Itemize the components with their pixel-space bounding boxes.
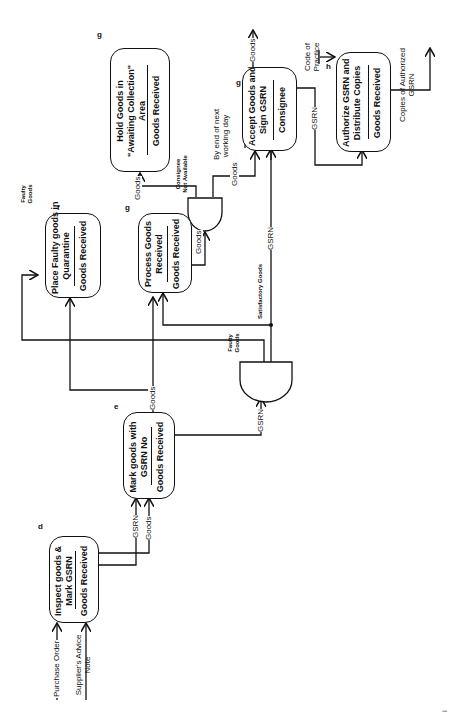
flow-label-suppliers-advice: Supplier's Advice Note <box>74 630 92 700</box>
process-title-line: Received <box>154 218 165 290</box>
mechanism-label: Goods Received <box>151 57 162 165</box>
flow-label-line: Faulty <box>227 329 234 357</box>
process-title-line: Quarantine <box>61 218 72 294</box>
process-title-line: Mark goods with <box>128 421 139 493</box>
process-id-g: g <box>97 30 102 39</box>
mechanism-label: Goods Received <box>372 59 383 147</box>
and-gate-consignee <box>188 198 222 231</box>
process-title-line: Place Faulty goods in <box>50 218 61 294</box>
process-box-accept-goods: Accept Goods and Sign GSRN Consignee <box>242 67 297 151</box>
process-title-line: Mark GSRN <box>64 545 75 617</box>
mechanism-label: Goods Received <box>79 545 90 617</box>
flow-label-goods: Goods <box>133 176 142 200</box>
process-id-h: h <box>326 62 331 71</box>
flow-label-goods: Goods <box>230 162 239 186</box>
footer-mark: i <box>440 710 449 712</box>
flow-label-goods: Goods <box>148 386 157 410</box>
flow-label-faulty-goods: Faulty Goods <box>20 180 34 208</box>
process-title-line: Sign GSRN <box>258 74 269 146</box>
flow-label-line: Faulty <box>20 180 27 208</box>
flow-label-gsrn: GSRN <box>266 227 275 250</box>
flow-label-faulty-goods: Faulty Goods <box>227 329 241 357</box>
process-box-quarantine: Place Faulty goods in Quarantine Goods R… <box>45 213 101 298</box>
process-box-mark-goods: Mark goods with GSRN No Goods Received <box>123 412 175 499</box>
process-title-line: Hold Goods in <box>115 57 126 165</box>
mechanism-label: Goods Received <box>78 218 89 294</box>
mechanism-label: Goods Received <box>155 421 166 493</box>
flow-label-goods: Goods <box>248 38 257 62</box>
flow-label-line: working day <box>221 112 230 160</box>
flow-label-line: Practice <box>312 40 321 74</box>
flow-label-line: Copies of Authorized <box>398 40 407 130</box>
flow-label-gsrn: GSRN <box>131 515 140 538</box>
mechanism-label: Goods Received <box>171 218 182 290</box>
flow-label-line: Code of <box>303 40 312 74</box>
process-title-line: Area <box>137 57 148 165</box>
flow-label-purchase-order: Purchase Order <box>52 640 61 698</box>
process-id-d: d <box>38 522 43 531</box>
flow-label-line: Goods <box>234 329 241 357</box>
flow-label-line: Consignee <box>175 151 182 197</box>
flow-label-by-end-of-next-working-day: By end of next working day <box>212 112 230 160</box>
process-title-line: Authorize GSRN and <box>341 59 352 147</box>
process-title-line: Accept Goods and <box>247 74 258 146</box>
process-id-e: e <box>114 402 118 411</box>
process-box-hold-goods: Hold Goods in "Awaiting Collection" Area… <box>110 48 170 172</box>
and-gate-faulty <box>240 362 292 402</box>
mechanism-label: Consignee <box>277 74 288 146</box>
flow-label-line: Not Available <box>182 151 189 197</box>
flow-label-satisfactory-goods: Satisfactory Goods <box>257 264 264 319</box>
process-title-line: "Awaiting Collection" <box>126 57 137 165</box>
flow-label-line: Goods <box>27 180 34 208</box>
flow-label-copies-authorized-gsrn: Copies of Authorized GSRN <box>398 40 416 130</box>
flow-label-line: By end of next <box>212 112 221 160</box>
flow-label-line: Supplier's Advice <box>74 630 83 700</box>
process-title-line: Distribute Copies <box>352 59 363 147</box>
process-id-f: f <box>57 203 60 212</box>
process-box-process-goods: Process Goods Received Goods Received <box>138 213 192 293</box>
process-title-line: Process Goods <box>143 218 154 290</box>
process-title-line: Inspect goods & <box>53 545 64 617</box>
flow-label-code-of-practice: Code of Practice <box>303 40 321 74</box>
process-box-inspect-goods: Inspect goods & Mark GSRN Goods Received <box>49 536 99 623</box>
process-title-line: GSRN No <box>139 421 150 493</box>
flow-label-goods: Goods <box>144 516 153 540</box>
flow-label-goods: Goods <box>194 230 203 254</box>
flow-label-gsrn: GSRN <box>256 409 265 432</box>
flow-label-gsrn: GSRN <box>310 107 319 130</box>
process-id-g: g <box>125 203 130 212</box>
flow-label-consignee-not-available: Consignee Not Available <box>175 151 189 197</box>
flow-label-line: Note <box>83 630 92 700</box>
flow-label-line: GSRN <box>407 40 416 130</box>
process-box-authorize-gsrn: Authorize GSRN and Distribute Copies Goo… <box>336 52 391 152</box>
process-id-g: g <box>236 78 241 87</box>
